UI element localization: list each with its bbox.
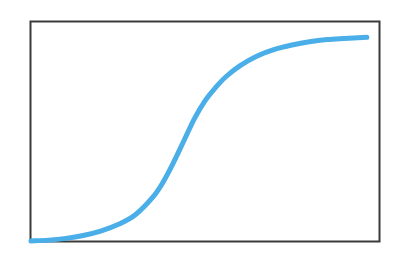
series-line-sigmoid: [31, 37, 367, 241]
plot-frame: [31, 22, 380, 242]
series-layer: [31, 37, 367, 241]
chart: [0, 0, 400, 263]
